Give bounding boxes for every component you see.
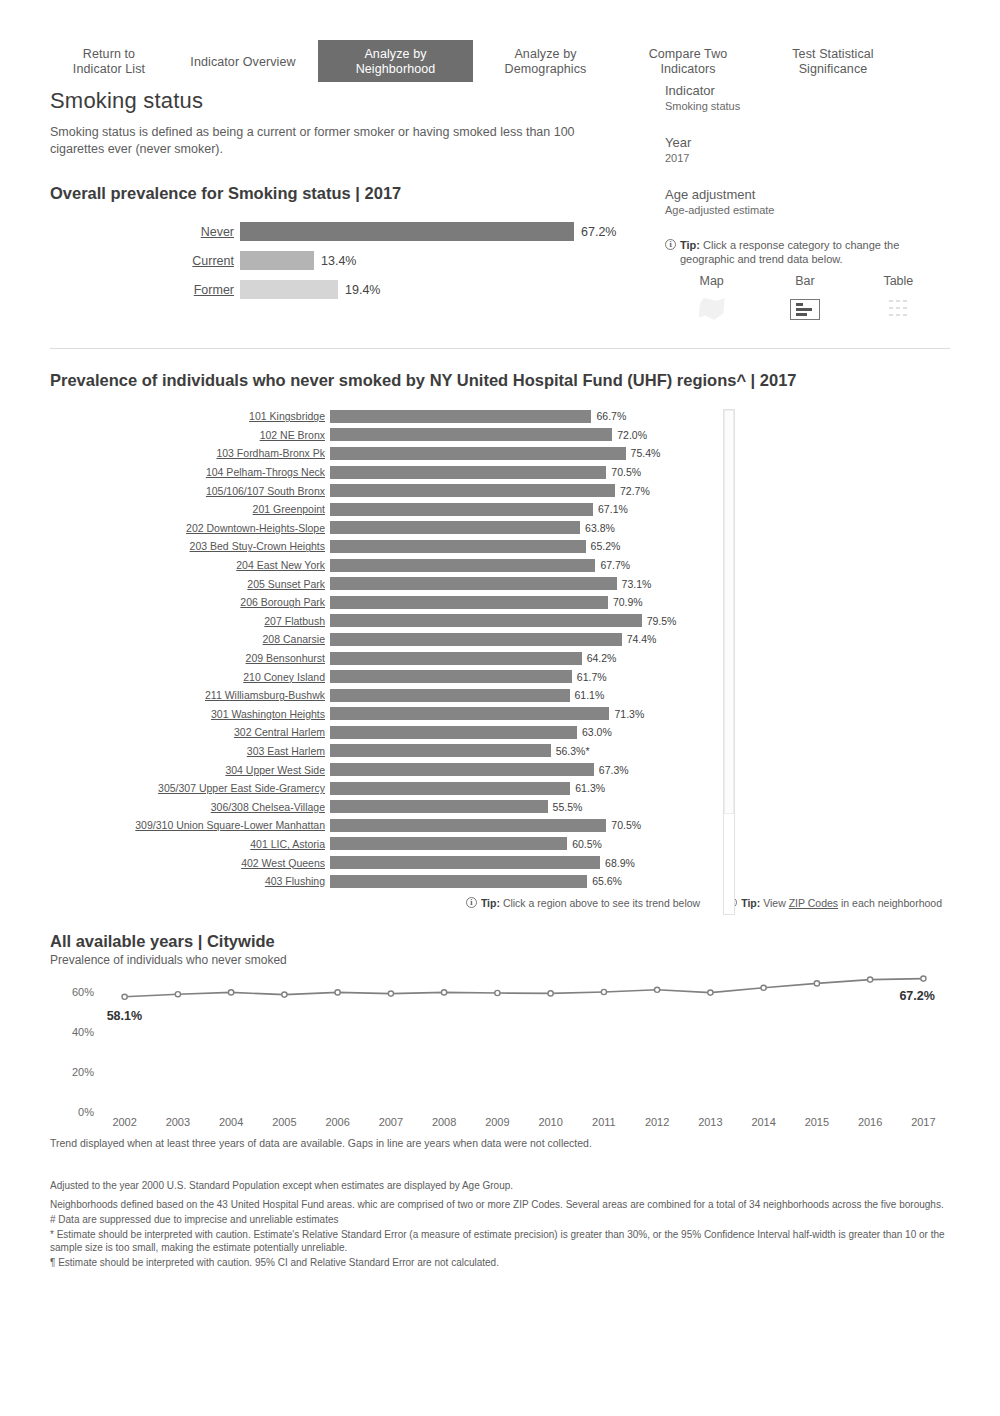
uhf-region-label[interactable]: 401 LIC, Astoria	[50, 838, 330, 850]
uhf-region-label[interactable]: 301 Washington Heights	[50, 708, 330, 720]
uhf-row[interactable]: 104 Pelham-Throgs Neck70.5%	[50, 463, 950, 482]
uhf-bar[interactable]	[330, 689, 570, 702]
uhf-row[interactable]: 304 Upper West Side67.3%	[50, 760, 950, 779]
uhf-bar[interactable]	[330, 782, 570, 795]
uhf-bar[interactable]	[330, 707, 609, 720]
uhf-region-label[interactable]: 207 Flatbush	[50, 615, 330, 627]
overall-category-current[interactable]: Current	[50, 254, 240, 268]
uhf-region-label[interactable]: 102 NE Bronx	[50, 429, 330, 441]
uhf-region-label[interactable]: 204 East New York	[50, 559, 330, 571]
uhf-region-label[interactable]: 306/308 Chelsea-Village	[50, 801, 330, 813]
uhf-region-label[interactable]: 202 Downtown-Heights-Slope	[50, 522, 330, 534]
uhf-region-label[interactable]: 209 Bensonhurst	[50, 652, 330, 664]
uhf-region-label[interactable]: 402 West Queens	[50, 857, 330, 869]
uhf-row[interactable]: 205 Sunset Park73.1%	[50, 574, 950, 593]
overall-row[interactable]: Current13.4%	[50, 246, 655, 275]
overall-row[interactable]: Never67.2%	[50, 217, 655, 246]
uhf-bar[interactable]	[330, 800, 548, 813]
uhf-bar[interactable]	[330, 410, 591, 423]
uhf-row[interactable]: 211 Williamsburg-Bushwk61.1%	[50, 686, 950, 705]
uhf-scrollbar[interactable]	[723, 409, 735, 915]
uhf-bar[interactable]	[330, 856, 600, 869]
uhf-row[interactable]: 302 Central Harlem63.0%	[50, 723, 950, 742]
uhf-bar[interactable]	[330, 503, 593, 516]
uhf-bar[interactable]	[330, 763, 594, 776]
uhf-region-label[interactable]: 104 Pelham-Throgs Neck	[50, 466, 330, 478]
uhf-bar[interactable]	[330, 726, 577, 739]
tab-test-statistical-significance[interactable]: Test Statistical Significance	[758, 40, 908, 82]
uhf-bar[interactable]	[330, 559, 595, 572]
uhf-bar[interactable]	[330, 614, 642, 627]
trend-title: All available years | Citywide	[50, 932, 950, 951]
uhf-row[interactable]: 105/106/107 South Bronx72.7%	[50, 481, 950, 500]
uhf-bar[interactable]	[330, 447, 626, 460]
uhf-bar[interactable]	[330, 428, 612, 441]
uhf-region-label[interactable]: 101 Kingsbridge	[50, 410, 330, 422]
overall-category-never[interactable]: Never	[50, 225, 240, 239]
uhf-row[interactable]: 202 Downtown-Heights-Slope63.8%	[50, 519, 950, 538]
uhf-row[interactable]: 208 Canarsie74.4%	[50, 630, 950, 649]
uhf-region-label[interactable]: 210 Coney Island	[50, 671, 330, 683]
uhf-region-label[interactable]: 201 Greenpoint	[50, 503, 330, 515]
uhf-bar[interactable]	[330, 633, 622, 646]
uhf-bar[interactable]	[330, 540, 586, 553]
uhf-scrollbar-thumb[interactable]	[724, 410, 734, 814]
uhf-region-label[interactable]: 305/307 Upper East Side-Gramercy	[50, 782, 330, 794]
uhf-region-label[interactable]: 211 Williamsburg-Bushwk	[50, 689, 330, 701]
uhf-bar[interactable]	[330, 596, 608, 609]
tab-compare-two-indicators[interactable]: Compare Two Indicators	[618, 40, 758, 82]
view-toggle-table[interactable]: Table	[852, 274, 945, 326]
uhf-row[interactable]: 204 East New York67.7%	[50, 556, 950, 575]
uhf-row[interactable]: 207 Flatbush79.5%	[50, 612, 950, 631]
uhf-region-label[interactable]: 208 Canarsie	[50, 633, 330, 645]
uhf-row[interactable]: 402 West Queens68.9%	[50, 853, 950, 872]
uhf-region-label[interactable]: 103 Fordham-Bronx Pk	[50, 447, 330, 459]
overall-bar[interactable]	[240, 280, 338, 299]
uhf-region-label[interactable]: 403 Flushing	[50, 875, 330, 887]
uhf-row[interactable]: 210 Coney Island61.7%	[50, 667, 950, 686]
uhf-region-label[interactable]: 206 Borough Park	[50, 596, 330, 608]
uhf-row[interactable]: 306/308 Chelsea-Village55.5%	[50, 797, 950, 816]
uhf-row[interactable]: 303 East Harlem56.3%*	[50, 742, 950, 761]
tab-return-to-indicator-list[interactable]: Return to Indicator List	[50, 40, 168, 82]
uhf-bar[interactable]	[330, 875, 587, 888]
uhf-bar[interactable]	[330, 837, 567, 850]
overall-category-former[interactable]: Former	[50, 283, 240, 297]
view-toggle-map[interactable]: Map	[665, 274, 758, 326]
uhf-region-label[interactable]: 304 Upper West Side	[50, 764, 330, 776]
uhf-row[interactable]: 403 Flushing65.6%	[50, 872, 950, 891]
view-toggle-bar[interactable]: Bar	[758, 274, 851, 326]
uhf-region-label[interactable]: 203 Bed Stuy-Crown Heights	[50, 540, 330, 552]
overall-bar[interactable]	[240, 251, 314, 270]
uhf-row[interactable]: 206 Borough Park70.9%	[50, 593, 950, 612]
uhf-row[interactable]: 209 Bensonhurst64.2%	[50, 649, 950, 668]
uhf-row[interactable]: 101 Kingsbridge66.7%	[50, 407, 950, 426]
uhf-row[interactable]: 309/310 Union Square-Lower Manhattan70.5…	[50, 816, 950, 835]
uhf-bar[interactable]	[330, 484, 615, 497]
uhf-bar[interactable]	[330, 466, 606, 479]
uhf-row[interactable]: 401 LIC, Astoria60.5%	[50, 835, 950, 854]
uhf-bar[interactable]	[330, 652, 582, 665]
uhf-row[interactable]: 301 Washington Heights71.3%	[50, 705, 950, 724]
uhf-bar[interactable]	[330, 670, 572, 683]
tab-analyze-by-demographics[interactable]: Analyze by Demographics	[473, 40, 618, 82]
uhf-region-label[interactable]: 205 Sunset Park	[50, 578, 330, 590]
uhf-region-label[interactable]: 309/310 Union Square-Lower Manhattan	[50, 819, 330, 831]
uhf-row[interactable]: 102 NE Bronx72.0%	[50, 426, 950, 445]
tab-analyze-by-neighborhood[interactable]: Analyze by Neighborhood	[318, 40, 473, 82]
uhf-row[interactable]: 203 Bed Stuy-Crown Heights65.2%	[50, 537, 950, 556]
uhf-region-label[interactable]: 302 Central Harlem	[50, 726, 330, 738]
uhf-bar[interactable]	[330, 744, 551, 757]
tab-indicator-overview[interactable]: Indicator Overview	[168, 40, 318, 82]
uhf-row[interactable]: 305/307 Upper East Side-Gramercy61.3%	[50, 779, 950, 798]
uhf-row[interactable]: 103 Fordham-Bronx Pk75.4%	[50, 444, 950, 463]
overall-row[interactable]: Former19.4%	[50, 275, 655, 304]
uhf-bar[interactable]	[330, 577, 617, 590]
uhf-row[interactable]: 201 Greenpoint67.1%	[50, 500, 950, 519]
uhf-bar[interactable]	[330, 521, 580, 534]
uhf-bar[interactable]	[330, 819, 606, 832]
uhf-region-label[interactable]: 303 East Harlem	[50, 745, 330, 757]
overall-bar[interactable]	[240, 222, 574, 241]
zip-codes-link[interactable]: ZIP Codes	[789, 897, 838, 909]
uhf-region-label[interactable]: 105/106/107 South Bronx	[50, 485, 330, 497]
